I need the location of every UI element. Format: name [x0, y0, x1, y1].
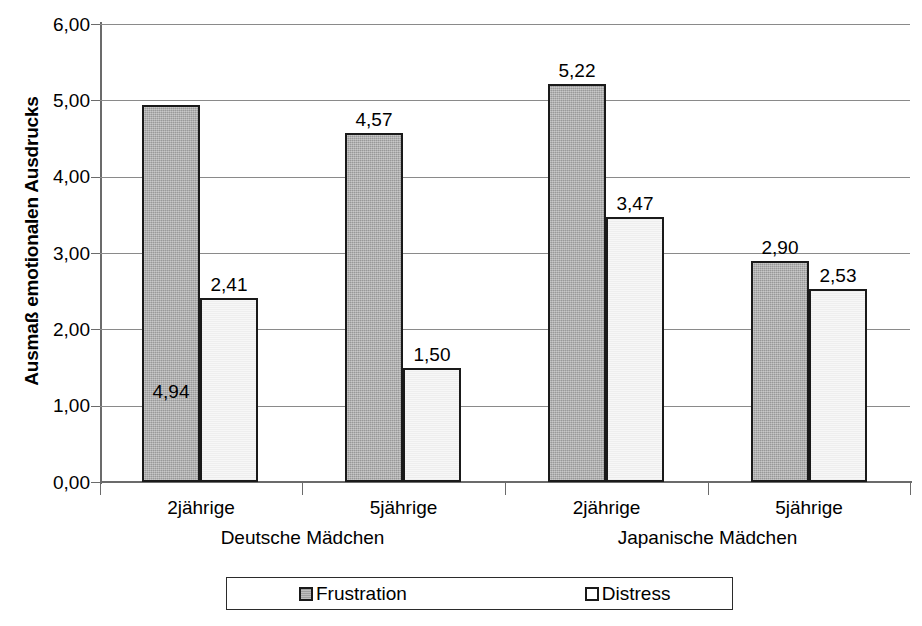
bar-value-label-frustration-g2: 5,22 — [548, 61, 606, 80]
bar-chart: Ausmaß emotionalen Ausdrucks 6,00 5,00 4… — [0, 0, 922, 626]
x-axis-tick-4 — [910, 482, 911, 495]
legend-label-frustration: Frustration — [316, 584, 407, 603]
bar-distress-g0[interactable] — [200, 298, 258, 482]
bar-frustration-g1[interactable] — [345, 133, 403, 482]
bar-value-label-distress-g1: 1,50 — [403, 345, 461, 364]
gridline-5 — [100, 100, 910, 101]
bar-value-label-frustration-g1: 4,57 — [345, 110, 403, 129]
legend-label-distress: Distress — [602, 584, 671, 603]
legend-item-distress[interactable]: Distress — [585, 584, 671, 603]
legend-swatch-frustration-icon — [299, 587, 313, 601]
y-axis-tick-labels: 6,00 5,00 4,00 3,00 2,00 1,00 0,00 — [10, 24, 90, 482]
bar-value-label-distress-g3: 2,53 — [809, 266, 867, 285]
bar-value-label-distress-g2: 3,47 — [606, 194, 664, 213]
bar-value-label-frustration-g3: 2,90 — [751, 238, 809, 257]
y-tick-label-3: 3,00 — [20, 244, 90, 263]
bar-value-label-frustration-g0: 4,94 — [142, 382, 200, 401]
bar-distress-g3[interactable] — [809, 289, 867, 482]
bar-frustration-g0[interactable] — [142, 105, 200, 482]
bar-frustration-g2[interactable] — [548, 84, 606, 482]
x-group-label-deutsche: Deutsche Mädchen — [100, 527, 505, 549]
bar-distress-g2[interactable] — [606, 217, 664, 482]
gridline-4 — [100, 177, 910, 178]
bar-distress-g1[interactable] — [403, 368, 461, 482]
gridline-6 — [100, 24, 910, 25]
bar-frustration-g3[interactable] — [751, 261, 809, 482]
x-category-label-3: 5jährige — [708, 497, 910, 519]
x-axis-tick-2 — [505, 482, 506, 495]
y-tick-label-1: 1,00 — [20, 396, 90, 415]
bar-value-label-distress-g0: 2,41 — [200, 275, 258, 294]
y-tick-label-4: 4,00 — [20, 167, 90, 186]
legend-swatch-distress-icon — [585, 587, 599, 601]
x-category-label-2: 2jährige — [505, 497, 708, 519]
legend-item-frustration[interactable]: Frustration — [299, 584, 407, 603]
y-tick-label-6: 6,00 — [20, 15, 90, 34]
legend: Frustration Distress — [226, 577, 733, 610]
x-category-label-1: 5jährige — [302, 497, 505, 519]
x-axis-tick-1 — [302, 482, 303, 495]
y-tick-label-5: 5,00 — [20, 91, 90, 110]
x-category-label-0: 2jährige — [100, 497, 302, 519]
y-tick-label-2: 2,00 — [20, 320, 90, 339]
plot-area: 4,94 2,41 4,57 1,50 5,22 3,47 2,90 2,53 — [100, 24, 910, 482]
y-tick-label-0: 0,00 — [20, 473, 90, 492]
x-axis-tick-0 — [100, 482, 101, 495]
x-axis-tick-3 — [708, 482, 709, 495]
x-group-label-japanische: Japanische Mädchen — [505, 527, 910, 549]
